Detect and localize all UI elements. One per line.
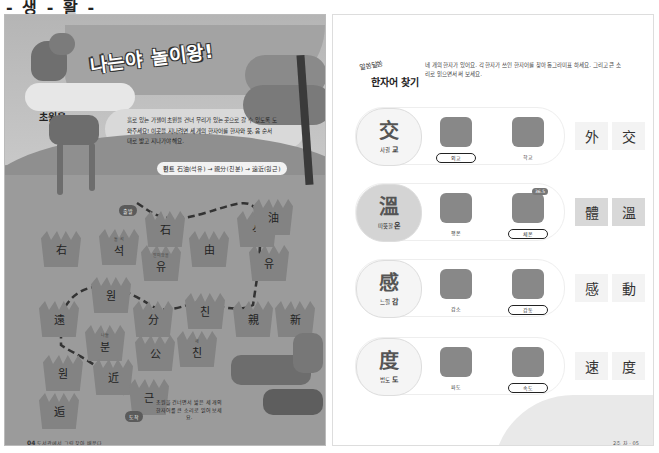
exercise-row: 交사귈 교외교학교 [355,107,565,165]
hanja-character: 感 [379,272,399,294]
picture-label[interactable]: 속도 [508,383,548,393]
note-text: 초원을 건너면서 밟은 세 개의 한자어를 큰 소리로 읽어 보세요. [153,399,225,422]
thermometer-person-icon[interactable] [508,190,548,226]
tile-character: 由 [204,241,215,257]
speech-bubble: 36.5 [532,188,548,195]
meditation-icon[interactable] [436,190,476,226]
picture-label[interactable]: 학교 [508,153,548,160]
wave-icon[interactable] [436,344,476,380]
answer-character[interactable]: 外 [575,122,608,150]
right-page: 알쏭달쏭 한자어 찾기 네 개의 한자가 있어요. 각 한자가 쓰인 한자어를 … [332,14,654,446]
grass-tile[interactable]: 右 [41,231,81,267]
tile-character: 油 [268,209,279,225]
speed-train-icon[interactable] [508,344,548,380]
grass-tile[interactable]: 近 [93,359,133,395]
picture-label[interactable]: 감소 [436,305,476,312]
tile-character: 친 [200,303,210,319]
tile-character: 원 [106,287,116,303]
tile-character: 원 [58,365,68,381]
tile-character: 분 [100,338,110,354]
hanja-sound: 감 [392,298,398,306]
un-emblem-icon[interactable] [436,114,476,150]
answer-character[interactable]: 溫 [612,198,645,226]
activity-header: 알쏭달쏭 한자어 찾기 [359,53,419,89]
hanja-meaning-sound: 사귈 교 [380,144,398,154]
answer-character[interactable]: 速 [575,352,608,380]
answer-boxes: 外交 [575,122,645,150]
hanja-meaning: 느낄 [380,299,390,305]
decline-chart-icon[interactable] [436,266,476,302]
grass-tile[interactable]: 由 [189,231,229,267]
hanja-meaning-sound: 따뜻할 온 [378,220,401,230]
moved-person-icon[interactable] [508,266,548,302]
end-label: 도착 [125,411,143,422]
tile-character: 逅 [54,403,65,419]
answer-character[interactable]: 度 [612,352,645,380]
grass-tile[interactable]: 公 [135,335,175,371]
picture-label[interactable]: 감동 [508,305,548,315]
grass-tile[interactable]: 말미암을유 [141,245,181,281]
start-label: 출발 [119,205,137,216]
grass-tile[interactable]: 逅 [39,393,79,429]
answer-boxes: 體溫 [575,198,645,226]
grass-tile[interactable]: 分 [133,301,173,337]
exercise-row: 度법도 도파도속도 [355,337,565,395]
grass-tile[interactable]: 돌 석석 [99,229,139,265]
activity-header-title: 한자어 찾기 [359,74,419,89]
page-number: 04 [27,439,35,446]
answer-character[interactable]: 體 [575,198,608,226]
answer-character[interactable]: 動 [612,274,645,302]
grass-tile[interactable]: 新 [275,301,315,337]
school-icon[interactable] [508,114,548,150]
hanja-sound: 온 [394,222,400,230]
book-spread: - 생 - 활 - 나는야 놀이왕! 초원을 건너 흙로 있는 가젤이 초원을 … [0,0,659,453]
hanja-sound: 도 [392,376,398,384]
grass-tile[interactable]: 원 [91,277,131,313]
tile-character: 친 [192,344,202,360]
grass-tile[interactable]: 石 [145,211,185,247]
grass-tile[interactable]: 원 [43,355,83,391]
grass-tile[interactable]: 遠 [39,301,79,337]
exercise-row: 溫따뜻할 온평온체온36.5 [355,183,565,241]
grass-tile[interactable]: 親 [233,301,273,337]
hanja-card: 交사귈 교 [356,108,422,166]
hanja-card: 度법도 도 [356,338,422,396]
tile-character: 分 [148,311,159,327]
tile-character: 新 [290,311,301,327]
hanja-meaning-sound: 느낄 감 [380,296,398,306]
grass-tile[interactable]: 나눌분 [85,325,125,361]
grass-tile[interactable]: 친 [185,293,225,329]
grass-tile[interactable]: 새친 [177,331,217,367]
hanja-card: 溫따뜻할 온 [356,184,422,242]
top-strip: - 생 - 활 - [0,0,659,14]
grass-tile[interactable]: 유 [249,245,289,281]
picture-label[interactable]: 외교 [436,153,476,163]
picture-label[interactable]: 평온 [436,229,476,236]
answer-character[interactable]: 交 [612,122,645,150]
tile-character: 右 [56,241,67,257]
picture-label[interactable]: 체온 [508,229,548,239]
picture-label[interactable]: 파도 [436,383,476,390]
tile-character: 유 [156,258,166,274]
hanja-character: 溫 [379,196,399,218]
page-number-left: 04 도서관에서 그림 찾아 배운다 [27,439,102,446]
tile-character: 近 [108,369,119,385]
answer-character[interactable]: 感 [575,274,608,302]
tile-character: 石 [160,221,171,237]
antelope-icon [293,333,323,373]
grass-tile[interactable]: 油 [253,199,293,235]
activity-instructions: 네 개의 한자가 있어요. 각 한자가 쓰인 한자어를 찾아 동그라미표 하세요… [425,61,625,79]
answer-boxes: 感動 [575,274,645,302]
tile-character: 遠 [54,311,65,327]
exercise-row: 感느낄 감감소감동 [355,259,565,317]
hanja-sound: 교 [392,146,398,154]
antelope-icon [263,389,323,415]
hanja-meaning-sound: 법도 도 [380,374,398,384]
hanja-meaning: 따뜻할 [378,223,393,229]
tile-character: 석 [114,242,124,258]
page-footer: 도서관에서 그림 찾아 배운다 [37,440,102,446]
page-footer-right: 2주 차 · 05 [613,439,639,446]
hanja-meaning: 사귈 [380,147,390,153]
answer-boxes: 速度 [575,352,645,380]
activity-header-small: 알쏭달쏭 [358,58,384,73]
